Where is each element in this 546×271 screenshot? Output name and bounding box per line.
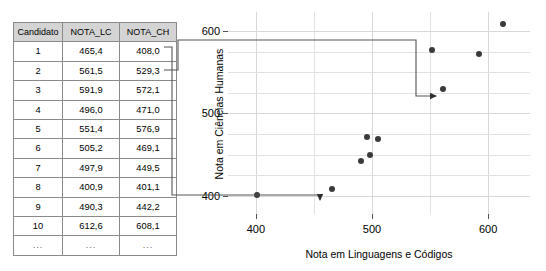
table-cell-candidato: 8 xyxy=(14,178,63,197)
scatter-point xyxy=(476,51,482,57)
table-cell-nota_ch: 608,1 xyxy=(120,217,177,236)
table-row: ......... xyxy=(14,236,177,255)
x-axis-label: Nota em Linguagens e Códigos xyxy=(228,248,530,260)
table-cell-nota_ch: 401,1 xyxy=(120,178,177,197)
scatter-point xyxy=(440,86,446,92)
table-cell-nota_ch: 442,2 xyxy=(120,197,177,216)
table-cell-nota_ch: 471,0 xyxy=(120,100,177,119)
candidate-score-table-container: Candidato NOTA_LC NOTA_CH 1465,4408,0256… xyxy=(13,22,173,243)
table-cell-nota_ch: 572,1 xyxy=(120,81,177,100)
gridline-horizontal xyxy=(228,31,530,32)
scatter-point xyxy=(500,21,506,27)
gridline-horizontal xyxy=(228,113,530,114)
column-header-candidato: Candidato xyxy=(14,23,63,42)
table-row: 1465,4408,0 xyxy=(14,42,177,61)
table-cell-candidato: 5 xyxy=(14,120,63,139)
table-row: 4496,0471,0 xyxy=(14,100,177,119)
table-cell-nota_lc: ... xyxy=(63,236,120,255)
candidate-score-table: Candidato NOTA_LC NOTA_CH 1465,4408,0256… xyxy=(13,22,177,256)
table-cell-nota_lc: 497,9 xyxy=(63,158,120,177)
table-row: 6505,2469,1 xyxy=(14,139,177,158)
plot-area xyxy=(228,12,530,214)
scatter-point xyxy=(367,152,373,158)
table-cell-nota_ch: 469,1 xyxy=(120,139,177,158)
table-cell-candidato: 1 xyxy=(14,42,63,61)
table-cell-candidato: 3 xyxy=(14,81,63,100)
column-header-nota-lc: NOTA_LC xyxy=(63,23,120,42)
gridline-horizontal xyxy=(228,134,530,135)
table-cell-nota_ch: ... xyxy=(120,236,177,255)
table-row: 2561,5529,3 xyxy=(14,61,177,80)
scatter-point xyxy=(254,192,260,198)
table-cell-candidato: 9 xyxy=(14,197,63,216)
table-body: 1465,4408,02561,5529,33591,9572,14496,04… xyxy=(14,42,177,255)
table-cell-nota_lc: 561,5 xyxy=(63,61,120,80)
gridline-horizontal xyxy=(228,93,530,94)
gridline-horizontal xyxy=(228,52,530,53)
scatter-point xyxy=(329,186,335,192)
gridline-horizontal xyxy=(228,155,530,156)
scatter-point xyxy=(375,136,381,142)
gridline-horizontal xyxy=(228,196,530,197)
table-cell-nota_ch: 576,9 xyxy=(120,120,177,139)
table-cell-nota_lc: 496,0 xyxy=(63,100,120,119)
scatter-point xyxy=(364,134,370,140)
x-tick-mark xyxy=(488,214,489,219)
figure-root: Candidato NOTA_LC NOTA_CH 1465,4408,0256… xyxy=(0,0,546,271)
x-tick-label: 400 xyxy=(236,223,276,235)
table-row: 10612,6608,1 xyxy=(14,217,177,236)
table-header-row: Candidato NOTA_LC NOTA_CH xyxy=(14,23,177,42)
table-cell-candidato: ... xyxy=(14,236,63,255)
table-row: 8400,9401,1 xyxy=(14,178,177,197)
table-cell-nota_lc: 591,9 xyxy=(63,81,120,100)
table-cell-nota_lc: 505,2 xyxy=(63,139,120,158)
table-row: 7497,9449,5 xyxy=(14,158,177,177)
scatter-chart: 400500600 400500600 Nota em Linguagens e… xyxy=(182,0,546,271)
table-row: 9490,3442,2 xyxy=(14,197,177,216)
column-header-nota-ch: NOTA_CH xyxy=(120,23,177,42)
table-cell-nota_ch: 449,5 xyxy=(120,158,177,177)
x-tick-label: 500 xyxy=(352,223,392,235)
table-cell-nota_lc: 465,4 xyxy=(63,42,120,61)
x-tick-mark xyxy=(256,214,257,219)
table-cell-nota_lc: 490,3 xyxy=(63,197,120,216)
x-tick-label: 600 xyxy=(468,223,508,235)
scatter-point xyxy=(358,158,364,164)
y-axis-label: Nota em Ciências Humanas xyxy=(213,29,225,199)
table-cell-candidato: 6 xyxy=(14,139,63,158)
gridline-horizontal xyxy=(228,72,530,73)
table-row: 5551,4576,9 xyxy=(14,120,177,139)
table-cell-nota_lc: 400,9 xyxy=(63,178,120,197)
table-cell-candidato: 4 xyxy=(14,100,63,119)
table-row: 3591,9572,1 xyxy=(14,81,177,100)
table-cell-candidato: 7 xyxy=(14,158,63,177)
table-cell-nota_ch: 529,3 xyxy=(120,61,177,80)
x-tick-mark xyxy=(372,214,373,219)
scatter-point xyxy=(429,47,435,53)
table-cell-nota_ch: 408,0 xyxy=(120,42,177,61)
table-cell-nota_lc: 551,4 xyxy=(63,120,120,139)
table-cell-nota_lc: 612,6 xyxy=(63,217,120,236)
gridline-horizontal xyxy=(228,175,530,176)
table-cell-candidato: 10 xyxy=(14,217,63,236)
table-cell-candidato: 2 xyxy=(14,61,63,80)
